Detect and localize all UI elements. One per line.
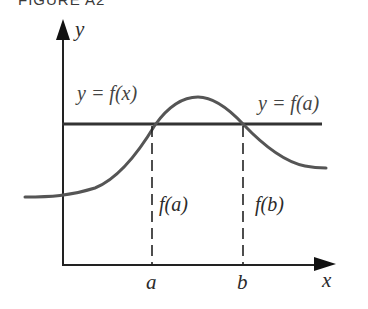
y-axis (56, 19, 70, 266)
tick-label-b: b (237, 270, 248, 294)
y-axis-label: y (73, 17, 85, 41)
tick-label-a: a (146, 270, 157, 294)
y-axis-arrow-icon (56, 19, 70, 40)
segment-label-fb: f(b) (255, 193, 284, 216)
horizontal-line-label: y = f(a) (256, 92, 320, 115)
x-axis-label: x (321, 268, 332, 292)
x-axis (62, 257, 336, 271)
segment-label-fa: f(a) (159, 193, 188, 216)
function-diagram: y x y = f(x) y = f(a) f(a) f(b) a b (0, 0, 368, 309)
curve-label: y = f(x) (75, 82, 137, 105)
